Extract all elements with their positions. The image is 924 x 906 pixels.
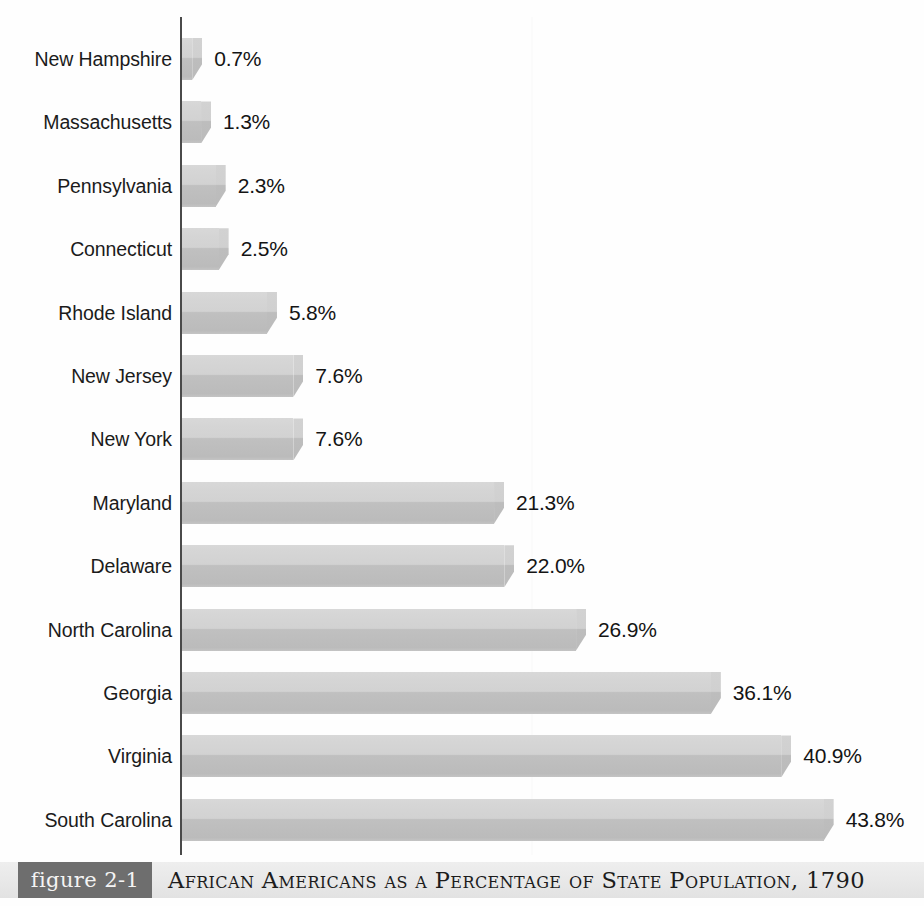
bar-fill bbox=[182, 609, 576, 651]
bar-fill bbox=[182, 228, 219, 270]
bar-value-label: 7.6% bbox=[315, 355, 362, 397]
bar-chart-plot-area: New Hampshire0.7%Massachusetts1.3%Pennsy… bbox=[0, 0, 924, 860]
bar bbox=[182, 672, 711, 714]
bar-fill bbox=[182, 545, 504, 587]
bar-category-label: Massachusetts bbox=[43, 101, 172, 143]
bar-fill bbox=[182, 355, 293, 397]
bar-category-label: New Hampshire bbox=[35, 38, 172, 80]
bar-bevel-cap bbox=[201, 101, 211, 143]
bar-bevel-cap bbox=[267, 292, 277, 334]
bar-fill bbox=[182, 101, 201, 143]
bar-bevel-cap bbox=[192, 38, 202, 80]
bar bbox=[182, 228, 219, 270]
bar-category-label: New York bbox=[90, 418, 172, 460]
bar-bevel-cap bbox=[293, 418, 303, 460]
bar-fill bbox=[182, 38, 192, 80]
bar-fill bbox=[182, 735, 781, 777]
figure-container: New Hampshire0.7%Massachusetts1.3%Pennsy… bbox=[0, 0, 924, 906]
bar bbox=[182, 101, 201, 143]
bar-category-label: Virginia bbox=[108, 735, 172, 777]
bar-value-label: 43.8% bbox=[846, 799, 905, 841]
bar-fill bbox=[182, 165, 216, 207]
bar-row: New York7.6% bbox=[0, 418, 924, 460]
bar bbox=[182, 735, 781, 777]
bar-category-label: Rhode Island bbox=[58, 292, 172, 334]
bar-category-label: North Carolina bbox=[48, 609, 172, 651]
bar-category-label: Georgia bbox=[103, 672, 172, 714]
bar-row: Virginia40.9% bbox=[0, 735, 924, 777]
bar bbox=[182, 545, 504, 587]
bar-bevel-cap bbox=[576, 609, 586, 651]
bar-category-label: Maryland bbox=[93, 482, 172, 524]
bar-bevel-cap bbox=[781, 735, 791, 777]
bar-value-label: 5.8% bbox=[289, 292, 336, 334]
bar-row: Georgia36.1% bbox=[0, 672, 924, 714]
bar-value-label: 26.9% bbox=[598, 609, 657, 651]
bar bbox=[182, 418, 293, 460]
bar-value-label: 1.3% bbox=[223, 101, 270, 143]
bar-bevel-cap bbox=[293, 355, 303, 397]
bar-row: Massachusetts1.3% bbox=[0, 101, 924, 143]
bar-value-label: 22.0% bbox=[526, 545, 585, 587]
bar-value-label: 21.3% bbox=[516, 482, 575, 524]
bar-row: Maryland21.3% bbox=[0, 482, 924, 524]
bar-row: Pennsylvania2.3% bbox=[0, 165, 924, 207]
bar-category-label: South Carolina bbox=[44, 799, 172, 841]
bar-row: South Carolina43.8% bbox=[0, 799, 924, 841]
bar-fill bbox=[182, 799, 824, 841]
bar-row: New Hampshire0.7% bbox=[0, 38, 924, 80]
bar bbox=[182, 292, 267, 334]
bar bbox=[182, 165, 216, 207]
bar-bevel-cap bbox=[504, 545, 514, 587]
figure-title: African Americans as a Percentage of Sta… bbox=[168, 862, 865, 898]
bar-bevel-cap bbox=[219, 228, 229, 270]
bar-value-label: 36.1% bbox=[733, 672, 792, 714]
bar-bevel-cap bbox=[824, 799, 834, 841]
bar-category-label: Delaware bbox=[90, 545, 172, 587]
figure-caption: figure 2-1 African Americans as a Percen… bbox=[0, 862, 924, 898]
bar bbox=[182, 799, 824, 841]
bar-value-label: 2.3% bbox=[238, 165, 285, 207]
bar-value-label: 2.5% bbox=[241, 228, 288, 270]
bar-fill bbox=[182, 672, 711, 714]
bar-bevel-cap bbox=[494, 482, 504, 524]
bar-row: New Jersey7.6% bbox=[0, 355, 924, 397]
bar-row: Connecticut2.5% bbox=[0, 228, 924, 270]
bar-fill bbox=[182, 292, 267, 334]
bar-bevel-cap bbox=[216, 165, 226, 207]
bar-value-label: 0.7% bbox=[214, 38, 261, 80]
bar bbox=[182, 355, 293, 397]
bar-value-label: 7.6% bbox=[315, 418, 362, 460]
bar-row: Rhode Island5.8% bbox=[0, 292, 924, 334]
bar-row: Delaware22.0% bbox=[0, 545, 924, 587]
bar-bevel-cap bbox=[711, 672, 721, 714]
bar-category-label: Connecticut bbox=[70, 228, 172, 270]
bar-fill bbox=[182, 418, 293, 460]
bar-category-label: Pennsylvania bbox=[57, 165, 172, 207]
figure-number-tag: figure 2-1 bbox=[18, 862, 152, 898]
bar-row: North Carolina26.9% bbox=[0, 609, 924, 651]
bar-value-label: 40.9% bbox=[803, 735, 862, 777]
bar-fill bbox=[182, 482, 494, 524]
bar bbox=[182, 482, 494, 524]
bar bbox=[182, 38, 192, 80]
bar bbox=[182, 609, 576, 651]
bar-category-label: New Jersey bbox=[71, 355, 172, 397]
